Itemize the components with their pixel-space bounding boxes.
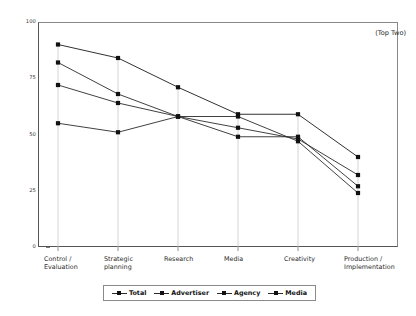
series-layer bbox=[56, 42, 360, 195]
data-point-marker bbox=[356, 191, 360, 195]
series-line bbox=[58, 117, 358, 194]
data-point-marker bbox=[176, 85, 180, 89]
chart-figure: 0255075100 (Top Two) Control / Evaluatio… bbox=[0, 0, 416, 316]
legend-item-label: Media bbox=[285, 289, 307, 297]
data-point-marker bbox=[356, 173, 360, 177]
legend-item-advertiser[interactable]: Advertiser bbox=[154, 289, 209, 297]
series-agency bbox=[56, 42, 360, 159]
legend-item-label: Total bbox=[129, 289, 146, 297]
x-axis-tick-label: Strategic planning bbox=[104, 255, 166, 271]
legend-marker-icon bbox=[217, 293, 232, 294]
data-point-marker bbox=[116, 130, 120, 134]
data-point-marker bbox=[116, 101, 120, 105]
data-point-marker bbox=[236, 126, 240, 130]
data-point-marker bbox=[56, 83, 60, 87]
legend-item-total[interactable]: Total bbox=[112, 289, 146, 297]
data-point-marker bbox=[176, 114, 180, 118]
legend-item-media[interactable]: Media bbox=[268, 289, 307, 297]
data-point-marker bbox=[356, 184, 360, 188]
series-line bbox=[58, 63, 358, 176]
series-line bbox=[58, 45, 358, 158]
series-line bbox=[58, 85, 358, 186]
series-advertiser bbox=[56, 60, 360, 177]
chart-legend: TotalAdvertiserAgencyMedia bbox=[103, 285, 316, 301]
x-axis-tick-label: Media bbox=[224, 255, 286, 263]
data-point-marker bbox=[56, 42, 60, 46]
legend-item-label: Advertiser bbox=[171, 289, 209, 297]
data-point-marker bbox=[56, 60, 60, 64]
x-axis-tick-label: Production / Implementation bbox=[344, 255, 406, 271]
data-point-marker bbox=[116, 56, 120, 60]
data-point-marker bbox=[296, 139, 300, 143]
data-point-marker bbox=[356, 155, 360, 159]
x-axis-tick-label: Creativity bbox=[284, 255, 346, 263]
data-point-marker bbox=[236, 114, 240, 118]
legend-item-label: Agency bbox=[234, 289, 260, 297]
data-point-marker bbox=[116, 92, 120, 96]
data-point-marker bbox=[296, 112, 300, 116]
legend-marker-icon bbox=[112, 293, 127, 294]
data-point-marker bbox=[236, 135, 240, 139]
x-axis-tick-label: Research bbox=[164, 255, 226, 263]
data-point-marker bbox=[56, 121, 60, 125]
legend-item-agency[interactable]: Agency bbox=[217, 289, 260, 297]
legend-marker-icon bbox=[268, 293, 283, 294]
legend-marker-icon bbox=[154, 293, 169, 294]
x-axis-tick-label: Control / Evaluation bbox=[44, 255, 106, 271]
series-total bbox=[56, 83, 360, 188]
